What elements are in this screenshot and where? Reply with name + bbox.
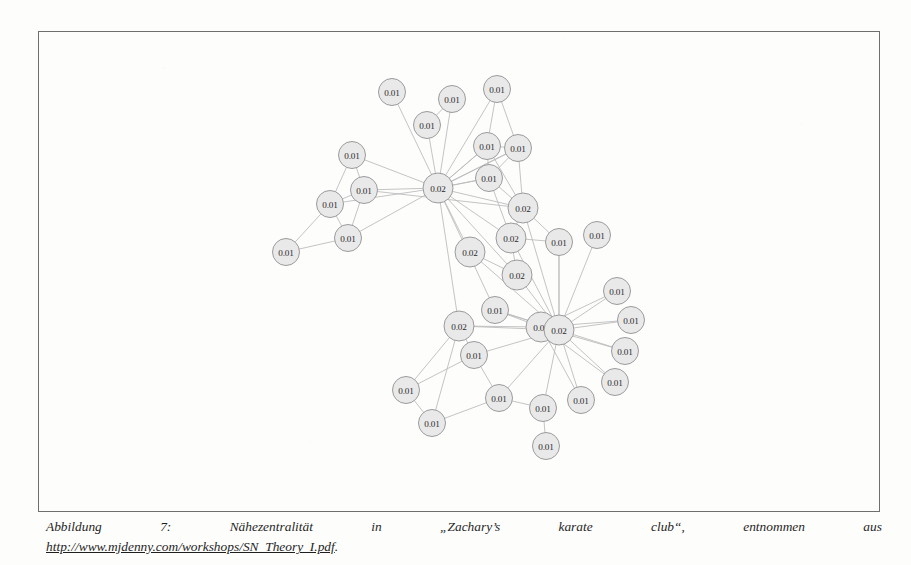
caption-url-link[interactable]: http://www.mjdenny.com/workshops/SN_Theo…	[46, 539, 335, 554]
caption-word-0: Abbildung	[46, 517, 102, 536]
caption-word-8: aus	[863, 517, 882, 536]
caption-word-4: „Zachary’s	[440, 517, 500, 536]
caption-word-2: Nähezentralität	[230, 517, 313, 536]
figure-frame	[38, 31, 880, 512]
caption-line-2: http://www.mjdenny.com/workshops/SN_Theo…	[46, 537, 882, 556]
figure-caption: Abbildung7:Nähezentralitätin„Zachary’ska…	[46, 517, 882, 556]
caption-word-7: entnommen	[743, 517, 805, 536]
caption-line-1: Abbildung7:Nähezentralitätin„Zachary’ska…	[46, 517, 882, 536]
caption-word-3: in	[371, 517, 381, 536]
caption-word-5: karate	[558, 517, 592, 536]
caption-word-1: 7:	[160, 517, 171, 536]
caption-url-period: .	[335, 539, 338, 554]
caption-word-6: club“,	[651, 517, 685, 536]
